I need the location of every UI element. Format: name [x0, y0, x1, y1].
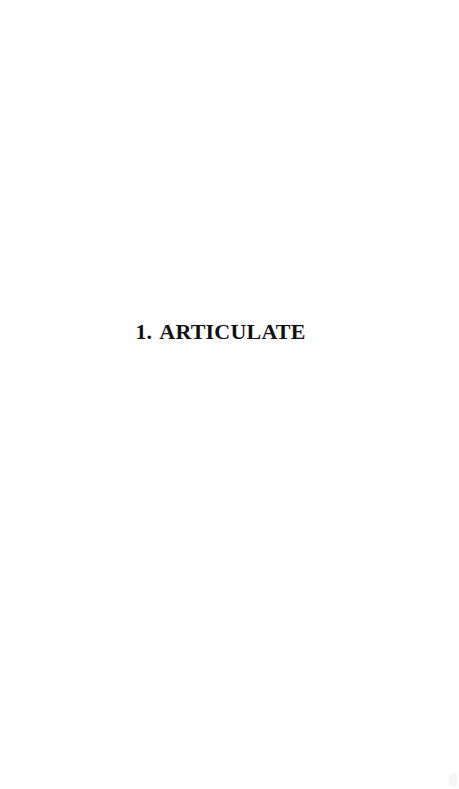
document-page: 1.ARTICULATE	[0, 0, 459, 789]
chapter-title: ARTICULATE	[159, 319, 305, 344]
chapter-number: 1.	[135, 319, 152, 344]
scan-smudge	[449, 773, 457, 787]
chapter-heading: 1.ARTICULATE	[0, 318, 441, 346]
